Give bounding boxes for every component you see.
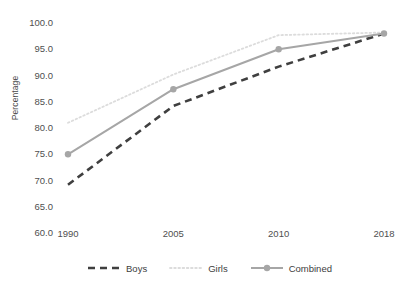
x-axis-tick-labels: 1990200520102018 <box>0 0 419 285</box>
legend-swatch-combined-icon <box>250 262 284 274</box>
legend-item-combined[interactable]: Combined <box>250 262 332 274</box>
line-chart: Percentage 100.095.090.085.080.075.070.0… <box>0 0 419 285</box>
x-tick-label: 2010 <box>268 228 289 239</box>
legend-label: Combined <box>289 263 332 274</box>
legend-label: Girls <box>208 263 228 274</box>
chart-legend: BoysGirlsCombined <box>0 262 419 274</box>
x-tick-label: 2005 <box>163 228 184 239</box>
legend-label: Boys <box>126 263 147 274</box>
legend-item-girls[interactable]: Girls <box>169 262 228 274</box>
legend-swatch-girls-icon <box>169 262 203 274</box>
legend-swatch-boys-icon <box>87 262 121 274</box>
legend-item-boys[interactable]: Boys <box>87 262 147 274</box>
x-tick-label: 2018 <box>373 228 394 239</box>
x-tick-label: 1990 <box>57 228 78 239</box>
